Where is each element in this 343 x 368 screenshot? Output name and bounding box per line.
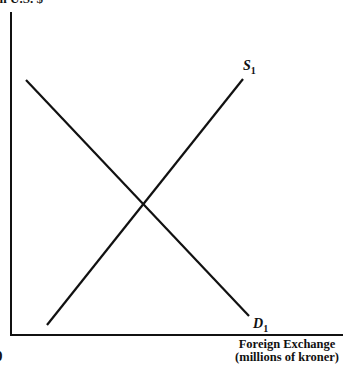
x-axis-title: Foreign Exchange (millions of kroner) bbox=[235, 338, 339, 364]
origin-label: 0 bbox=[0, 348, 3, 365]
supply-label-sub: 1 bbox=[251, 65, 256, 76]
demand-curve bbox=[26, 80, 249, 316]
supply-label-main: S bbox=[243, 58, 251, 73]
supply-curve bbox=[47, 79, 243, 325]
demand-curve-label: D1 bbox=[253, 316, 268, 334]
supply-curve-label: S1 bbox=[243, 58, 256, 76]
demand-label-main: D bbox=[253, 316, 263, 331]
x-axis-title-line2: (millions of kroner) bbox=[235, 351, 339, 364]
chart-plot bbox=[0, 0, 343, 368]
demand-label-sub: 1 bbox=[263, 323, 268, 334]
